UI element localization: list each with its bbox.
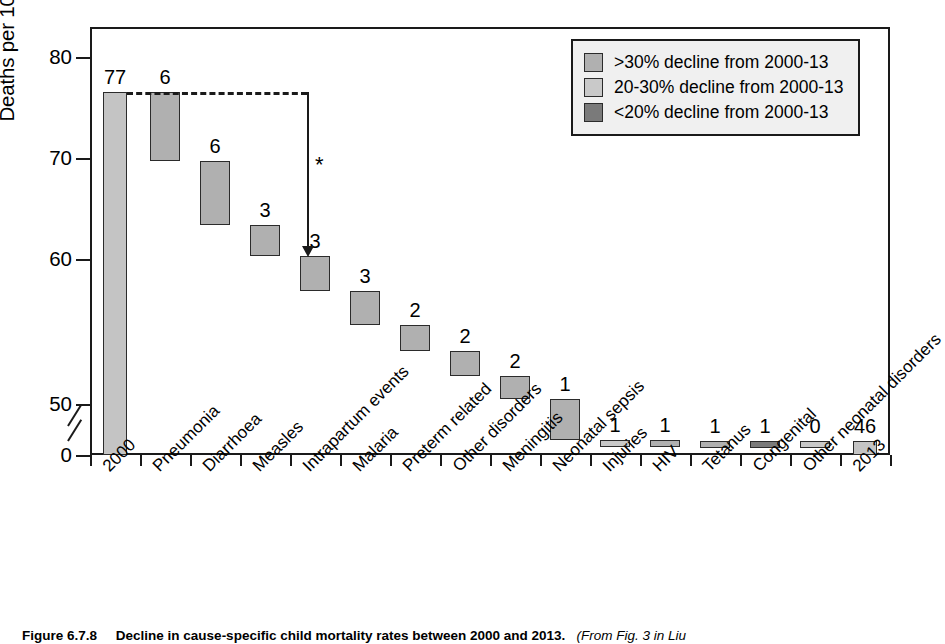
bar-2000 — [103, 92, 127, 455]
x-axis-tick-mark — [640, 455, 642, 466]
reference-dashed-line — [127, 92, 307, 95]
y-axis-tick-label: 0 — [26, 443, 72, 467]
y-axis-tick-mark — [76, 455, 90, 457]
legend-swatch-high-decline — [584, 53, 603, 72]
x-axis-tick-mark — [540, 455, 542, 466]
bar-value-label: 1 — [759, 415, 770, 438]
legend-label: 20-30% decline from 2000-13 — [614, 77, 844, 98]
bar-intrapartum-events — [300, 256, 330, 291]
x-axis-tick-mark — [840, 455, 842, 466]
y-axis-tick-label: 50 — [26, 392, 72, 416]
legend-item: >30% decline from 2000-13 — [584, 50, 844, 75]
x-axis-tick-mark — [90, 455, 92, 466]
legend-swatch-low-decline — [584, 103, 603, 122]
legend-item: 20-30% decline from 2000-13 — [584, 75, 844, 100]
y-axis-tick-label: 80 — [26, 45, 72, 69]
x-axis-tick-mark — [240, 455, 242, 466]
decline-arrow-head — [302, 246, 314, 257]
caption-figure-number: Figure 6.7.8 — [22, 628, 97, 643]
decline-arrow-shaft — [307, 92, 309, 247]
x-axis-tick-mark — [490, 455, 492, 466]
bar-value-label: 77 — [104, 66, 126, 89]
y-axis-tick-labels: 807060500 — [16, 0, 72, 460]
x-axis-tick-mark — [290, 455, 292, 466]
bar-value-label: 2 — [509, 350, 520, 373]
bar-value-label: 6 — [209, 135, 220, 158]
significance-asterisk: * — [315, 154, 324, 176]
y-axis-tick-mark — [76, 259, 90, 261]
x-axis-tick-mark — [790, 455, 792, 466]
x-axis-tick-mark — [340, 455, 342, 466]
x-axis-tick-mark — [690, 455, 692, 466]
bar-value-label: 3 — [359, 265, 370, 288]
legend: >30% decline from 2000-13 20-30% decline… — [571, 39, 860, 136]
x-axis-tick-mark — [740, 455, 742, 466]
legend-item: <20% decline from 2000-13 — [584, 100, 844, 125]
y-axis-tick-mark — [76, 57, 90, 59]
bar-value-label: 3 — [259, 199, 270, 222]
bar-malaria — [350, 291, 380, 326]
bar-diarrhoea — [200, 161, 230, 225]
bar-measles — [250, 225, 280, 256]
bar-preterm-related — [400, 325, 430, 350]
y-axis-tick-label: 60 — [26, 247, 72, 271]
x-axis-tick-mark — [440, 455, 442, 466]
legend-swatch-mid-decline — [584, 78, 603, 97]
bar-value-label: 2 — [409, 299, 420, 322]
y-axis-tick-label: 70 — [26, 146, 72, 170]
y-axis-tick-mark — [76, 158, 90, 160]
bar-value-label: 1 — [559, 373, 570, 396]
caption-source: (From Fig. 3 in Liu — [577, 628, 687, 643]
x-axis-tick-mark — [390, 455, 392, 466]
bar-pneumonia — [150, 92, 180, 161]
x-axis-tick-mark — [190, 455, 192, 466]
bar-value-label: 1 — [709, 415, 720, 438]
x-axis-tick-mark — [890, 455, 892, 466]
x-axis-tick-mark — [590, 455, 592, 466]
bar-other-disorders — [450, 351, 480, 376]
bar-value-label: 1 — [659, 414, 670, 437]
legend-label: <20% decline from 2000-13 — [614, 102, 829, 123]
x-axis-tick-mark — [140, 455, 142, 466]
legend-label: >30% decline from 2000-13 — [614, 52, 829, 73]
bar-value-label: 6 — [159, 66, 170, 89]
caption-text: Decline in cause-specific child mortalit… — [116, 628, 565, 643]
figure-caption: Figure 6.7.8 Decline in cause-specific c… — [22, 628, 912, 643]
bar-value-label: 2 — [459, 325, 470, 348]
